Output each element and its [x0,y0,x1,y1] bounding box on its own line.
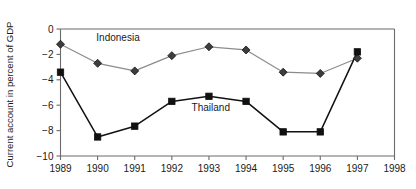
x-tick-label: 1997 [346,163,369,174]
data-point-thailand-1994 [243,98,249,104]
y-tick-label: −4 [42,74,54,85]
data-point-indonesia-1995 [279,68,287,76]
series-label-thailand: Thailand [192,102,230,113]
data-point-thailand-1997 [354,49,360,55]
data-point-thailand-1995 [280,129,286,135]
x-tick-label: 1990 [86,163,109,174]
x-tick-label: 1995 [272,163,295,174]
data-point-indonesia-1993 [205,43,213,51]
data-point-indonesia-1990 [94,59,102,67]
y-tick-label: −2 [42,49,54,60]
x-tick-label: 1991 [124,163,147,174]
data-point-indonesia-1996 [316,69,324,77]
y-tick-label: −6 [42,100,54,111]
y-axis-title: Current account in percent of GDP [4,22,15,168]
data-point-thailand-1993 [206,93,212,99]
x-tick-label: 1993 [198,163,221,174]
data-point-indonesia-1992 [168,52,176,60]
data-point-indonesia-1989 [57,40,65,48]
x-tick-label: 1994 [235,163,258,174]
x-tick-label: 1996 [309,163,332,174]
x-tick-label: 1989 [49,163,72,174]
y-tick-label: −10 [37,151,54,162]
data-point-thailand-1992 [169,98,175,104]
data-point-thailand-1989 [57,69,63,75]
data-point-indonesia-1991 [131,67,139,75]
x-tick-label: 1992 [161,163,184,174]
x-tick-label: 1998 [383,163,406,174]
line-chart: Current account in percent of GDP 0−2−4−… [0,0,416,189]
x-axis-ticks: 1989199019911992199319941995199619971998 [49,156,406,174]
data-point-thailand-1996 [317,129,323,135]
data-point-thailand-1991 [132,123,138,129]
series-lines [61,44,358,137]
y-tick-label: 0 [48,24,54,35]
y-axis-title-group: Current account in percent of GDP [4,22,15,168]
chart-container: Current account in percent of GDP 0−2−4−… [0,0,416,189]
series-label-indonesia: Indonesia [96,32,140,43]
series-markers [57,40,362,140]
data-point-indonesia-1994 [242,46,250,54]
data-point-thailand-1990 [94,134,100,140]
y-tick-label: −8 [42,125,54,136]
